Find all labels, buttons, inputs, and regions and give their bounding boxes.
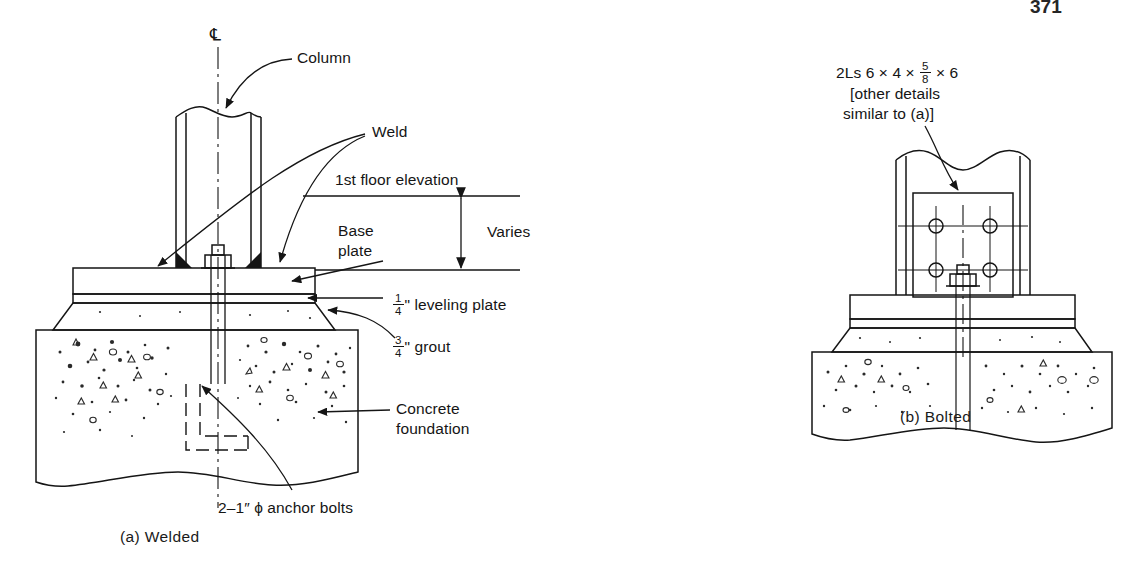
centerline-symbol-a: ℄ <box>210 24 221 45</box>
label-concrete-foundation-a-line2: foundation <box>396 419 469 439</box>
fraction-three-quarters: 3 4 <box>393 334 404 359</box>
leader-anchor-bolts-a <box>202 386 292 490</box>
label-first-floor-elevation-a: 1st floor elevation <box>335 170 458 190</box>
leveling-plate-a <box>73 294 315 303</box>
leader-concrete-a <box>318 410 390 412</box>
concrete-texture-a <box>55 310 351 437</box>
grout-a <box>53 303 335 330</box>
weld-a-right <box>245 252 261 268</box>
leader-base-plate-a <box>292 261 383 281</box>
label-angles-b: 2Ls 6 × 4 × 5 8 × 6 <box>836 60 958 85</box>
fraction-one-quarter: 1 4 <box>393 292 404 317</box>
concrete-aggregate-b <box>838 359 1098 412</box>
figure-column-base-plates: 371 <box>0 0 1123 580</box>
leader-angles-b <box>925 126 958 190</box>
fraction-five-eighths: 5 8 <box>920 60 931 85</box>
caption-panel-b: (b) Bolted <box>900 408 971 426</box>
concrete-foundation-b <box>812 352 1112 442</box>
label-angles-b-prefix: 2Ls 6 × 4 × <box>836 64 915 81</box>
label-angles-note-b-line2: similar to (a)] <box>843 104 934 124</box>
concrete-texture-b <box>823 336 1095 415</box>
label-varies-a: Varies <box>487 222 530 242</box>
concrete-aggregate-a <box>73 338 343 423</box>
label-column-a: Column <box>297 48 351 68</box>
label-angles-b-suffix: × 6 <box>936 64 958 81</box>
label-base-plate-a-line1: Base <box>338 221 374 241</box>
anchor-bolt-hook-a <box>186 384 248 450</box>
label-leveling-plate-a: 1 4 " leveling plate <box>392 292 506 317</box>
label-angles-note-b-line1: [other details <box>850 84 940 104</box>
leader-column-a <box>226 59 292 108</box>
label-weld-a: Weld <box>372 122 407 142</box>
label-base-plate-a-line2: plate <box>338 241 372 261</box>
label-anchor-bolts-a: 2–1″ ϕ anchor bolts <box>218 498 353 518</box>
label-leveling-plate-a-text: " leveling plate <box>405 296 507 313</box>
weld-a-left <box>176 252 192 268</box>
caption-panel-a: (a) Welded <box>120 528 200 546</box>
grout-b <box>832 328 1092 352</box>
figure-drawing-canvas <box>0 0 1123 580</box>
label-grout-a: 3 4 " grout <box>392 334 450 359</box>
label-concrete-foundation-a-line1: Concrete <box>396 399 460 419</box>
label-grout-a-text: " grout <box>405 338 451 355</box>
base-plate-a <box>73 268 315 294</box>
leader-grout-a <box>328 310 395 338</box>
